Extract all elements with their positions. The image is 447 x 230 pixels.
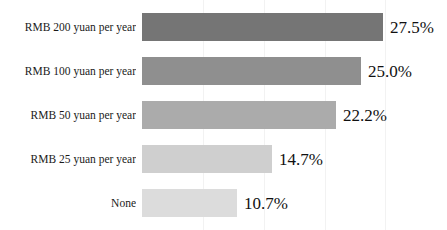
category-label: None <box>0 189 136 217</box>
bar-value-label: 25.0% <box>368 57 412 85</box>
category-label: RMB 200 yuan per year <box>0 13 136 41</box>
chart-bars-area: RMB 200 yuan per year27.5%RMB 100 yuan p… <box>0 0 447 230</box>
category-label: RMB 25 yuan per year <box>0 145 136 173</box>
category-label: RMB 100 yuan per year <box>0 57 136 85</box>
chart-row: RMB 50 yuan per year22.2% <box>0 101 447 129</box>
bar-value-label: 22.2% <box>343 101 387 129</box>
bar-chart: RMB 200 yuan per year27.5%RMB 100 yuan p… <box>0 0 447 230</box>
bar <box>142 145 272 173</box>
bar-value-label: 14.7% <box>279 145 323 173</box>
bar <box>142 101 336 129</box>
chart-row: RMB 100 yuan per year25.0% <box>0 57 447 85</box>
chart-row: RMB 200 yuan per year27.5% <box>0 13 447 41</box>
bar-value-label: 10.7% <box>244 189 288 217</box>
chart-row: None10.7% <box>0 189 447 217</box>
chart-row: RMB 25 yuan per year14.7% <box>0 145 447 173</box>
bar <box>142 189 237 217</box>
bar <box>142 13 383 41</box>
category-label: RMB 50 yuan per year <box>0 101 136 129</box>
bar <box>142 57 361 85</box>
bar-value-label: 27.5% <box>390 13 434 41</box>
